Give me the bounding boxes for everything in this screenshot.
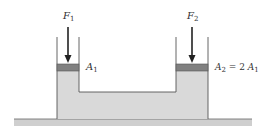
- arrow-f1-icon: [65, 27, 72, 63]
- label-a2-relation: A2 = 2 A1: [215, 62, 259, 74]
- ground-slab: [14, 119, 252, 126]
- label-f2: F2: [187, 10, 198, 23]
- piston-left: [57, 64, 79, 71]
- fluid-body: [57, 71, 208, 119]
- piston-right: [176, 64, 208, 71]
- label-a1: A1: [86, 61, 98, 74]
- arrow-f2-icon: [189, 27, 196, 63]
- label-f1: F1: [63, 10, 74, 23]
